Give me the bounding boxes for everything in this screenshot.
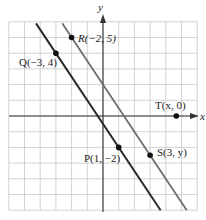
point-R [69,35,75,41]
x-axis-label: x [199,110,205,122]
line-2 [62,23,187,210]
label-T: T(x, 0) [155,99,186,112]
label-R: R(−2, 5) [77,32,116,45]
label-P: P(1, −2) [84,152,120,165]
point-S [147,152,153,158]
point-P [116,145,122,151]
label-Q: Q(−3, 4) [19,56,57,69]
label-S: S(3, y) [157,146,187,159]
lines [36,23,187,210]
point-T [174,113,180,119]
y-axis-label: y [97,1,103,13]
x-axis-arrow-icon [190,113,199,119]
y-axis-arrow-icon [100,14,106,23]
coordinate-plane: x y R(−2, 5) Q(−3, 4) T(x, 0) P(1, −2) S… [0,0,206,220]
